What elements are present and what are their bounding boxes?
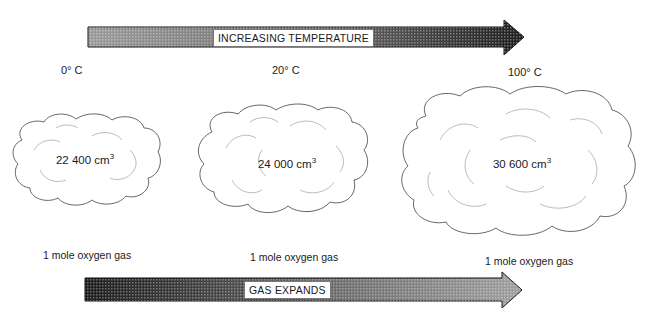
volume-exponent: 3 — [312, 156, 316, 165]
temperature-label-100c: 100° C — [508, 66, 542, 78]
sample-caption-100c: 1 mole oxygen gas — [485, 255, 573, 267]
volume-value: 24 000 cm — [258, 158, 312, 170]
volume-exponent: 3 — [547, 156, 551, 165]
sample-caption-20c: 1 mole oxygen gas — [250, 251, 338, 263]
volume-value: 30 600 cm — [493, 158, 547, 170]
temperature-label-20c: 20° C — [272, 64, 300, 76]
sample-caption-0c: 1 mole oxygen gas — [43, 249, 131, 261]
temperature-label-0c: 0° C — [61, 64, 83, 76]
volume-value: 22 400 cm — [56, 154, 110, 166]
temperature-arrow-label: INCREASING TEMPERATURE — [213, 29, 374, 47]
volume-exponent: 3 — [110, 152, 114, 161]
volume-label-100c: 30 600 cm3 — [493, 158, 551, 170]
volume-label-0c: 22 400 cm3 — [56, 154, 114, 166]
volume-label-20c: 24 000 cm3 — [258, 158, 316, 170]
expansion-arrow-label: GAS EXPANDS — [244, 281, 331, 299]
